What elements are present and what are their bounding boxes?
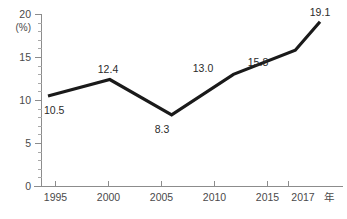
data-series-line bbox=[48, 22, 320, 115]
x-tick-label-2015: 2015 bbox=[256, 191, 280, 203]
line-chart-figure: 20 (%) 15 10 5 0 1995 2000 2005 2010 201… bbox=[0, 0, 347, 219]
data-label-2015: 15.8 bbox=[248, 56, 269, 68]
x-axis-year-suffix: 年 bbox=[324, 191, 334, 203]
y-tick-label-10: 10 bbox=[19, 94, 31, 106]
y-tick-label-0: 0 bbox=[25, 180, 31, 192]
y-tick-label-20: 20 bbox=[19, 8, 31, 20]
y-tick-label-15: 15 bbox=[19, 51, 31, 63]
x-tick-label-1995: 1995 bbox=[44, 191, 68, 203]
y-axis-unit-label: (%) bbox=[15, 22, 31, 33]
data-label-1995: 10.5 bbox=[44, 104, 65, 116]
chart-canvas: 20 (%) 15 10 5 0 1995 2000 2005 2010 201… bbox=[0, 0, 347, 219]
x-tick-label-2000: 2000 bbox=[97, 191, 121, 203]
data-label-2005: 8.3 bbox=[155, 123, 170, 135]
x-axis-ticks bbox=[56, 181, 289, 187]
x-tick-label-2005: 2005 bbox=[150, 191, 174, 203]
data-label-2010: 13.0 bbox=[193, 62, 214, 74]
data-label-2000: 12.4 bbox=[98, 63, 119, 75]
x-tick-label-2017: 2017 bbox=[291, 191, 315, 203]
y-tick-label-5: 5 bbox=[25, 137, 31, 149]
x-tick-label-2010: 2010 bbox=[203, 191, 227, 203]
data-label-2017: 19.1 bbox=[310, 6, 331, 18]
